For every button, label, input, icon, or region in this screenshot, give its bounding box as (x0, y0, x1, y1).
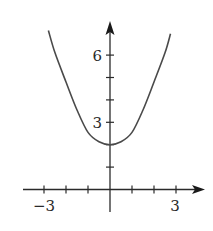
x-tick-label-neg3: −3 (33, 197, 55, 215)
y-tick-label-3: 3 (92, 114, 102, 132)
y-tick-label-6: 6 (92, 47, 102, 65)
x-tick-label-3: 3 (170, 197, 180, 215)
chart: −3 3 3 6 (0, 0, 213, 231)
